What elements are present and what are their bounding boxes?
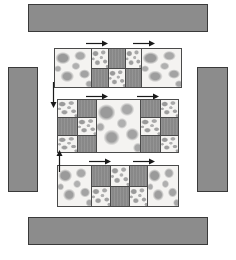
floral-patch <box>92 186 110 206</box>
floral-patch <box>160 135 179 152</box>
four-patch-checkerboard <box>91 49 141 87</box>
dark-patch <box>129 166 147 186</box>
dark-patch <box>92 68 108 87</box>
dark-patch <box>141 100 160 117</box>
left-checkerboard-unit <box>58 100 96 152</box>
floral-patch <box>142 49 181 87</box>
dark-patch <box>110 186 128 206</box>
press-arrow-side-up <box>55 150 64 172</box>
press-arrow-top-right <box>133 39 155 48</box>
press-arrow-bottom-left <box>89 157 111 166</box>
floral-patch <box>55 49 91 87</box>
press-arrow-middle-right <box>137 92 159 101</box>
floral-patch <box>108 68 124 87</box>
dark-patch <box>108 49 124 68</box>
plain-floral-block-left <box>58 166 91 206</box>
dark-patch <box>125 68 141 87</box>
floral-patch <box>58 166 91 206</box>
quilt-assembly-diagram <box>0 0 236 260</box>
right-border-strip <box>197 67 228 192</box>
right-checkerboard-unit <box>140 100 178 152</box>
press-arrow-bottom-right <box>133 157 155 166</box>
floral-patch <box>141 117 160 134</box>
bottom-row <box>57 165 179 207</box>
top-border-strip <box>28 4 208 32</box>
left-border-strip <box>8 67 38 192</box>
plain-floral-block-right <box>141 49 181 87</box>
dark-patch <box>77 100 96 117</box>
floral-patch <box>160 100 179 117</box>
dark-patch <box>58 117 77 134</box>
middle-row <box>57 99 179 153</box>
dark-patch <box>77 135 96 152</box>
dark-patch <box>141 135 160 152</box>
floral-patch <box>97 100 140 152</box>
center-large-floral-panel <box>96 100 140 152</box>
floral-patch <box>77 117 96 134</box>
floral-patch <box>148 166 178 206</box>
dark-patch <box>160 117 179 134</box>
bottom-border-strip <box>28 217 208 245</box>
dark-patch <box>92 166 110 186</box>
press-arrow-middle-left <box>86 92 108 101</box>
top-row <box>54 48 182 88</box>
plain-floral-block-left <box>55 49 91 87</box>
floral-patch <box>58 100 77 117</box>
floral-patch <box>110 166 128 186</box>
floral-patch <box>92 49 108 68</box>
plain-floral-block-right <box>147 166 178 206</box>
floral-patch <box>129 186 147 206</box>
press-arrow-top-left <box>86 39 108 48</box>
center-checkerboard <box>91 166 147 206</box>
press-arrow-side-down <box>49 82 58 108</box>
floral-patch <box>125 49 141 68</box>
